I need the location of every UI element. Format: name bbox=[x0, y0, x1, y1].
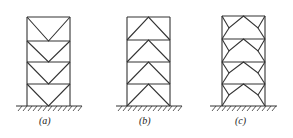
frame-a bbox=[27, 17, 70, 106]
frame-c bbox=[222, 16, 265, 106]
frame-b bbox=[127, 17, 170, 106]
ground-hatching bbox=[18, 106, 276, 111]
frame-c-label: (c) bbox=[235, 115, 246, 126]
frame-a-label: (a) bbox=[39, 115, 51, 126]
frame-b-label: (b) bbox=[139, 115, 151, 126]
